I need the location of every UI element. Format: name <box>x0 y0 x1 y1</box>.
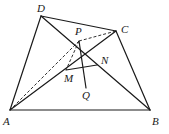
segment-AC <box>10 31 116 110</box>
label-N: N <box>100 54 109 66</box>
figure-svg: A B C D P M N Q <box>0 0 169 134</box>
label-P: P <box>74 25 82 37</box>
segment-PC <box>79 31 116 41</box>
label-D: D <box>36 2 45 14</box>
segment-DA <box>10 16 41 110</box>
label-C: C <box>121 23 129 35</box>
geometry-figure: A B C D P M N Q <box>0 0 169 134</box>
label-A: A <box>2 115 10 127</box>
segment-PQ <box>79 41 86 88</box>
label-B: B <box>152 115 159 127</box>
segment-PM <box>66 41 79 70</box>
label-Q: Q <box>82 89 90 101</box>
label-M: M <box>63 72 74 84</box>
segment-BC <box>116 31 150 110</box>
segment-MN <box>66 65 97 70</box>
